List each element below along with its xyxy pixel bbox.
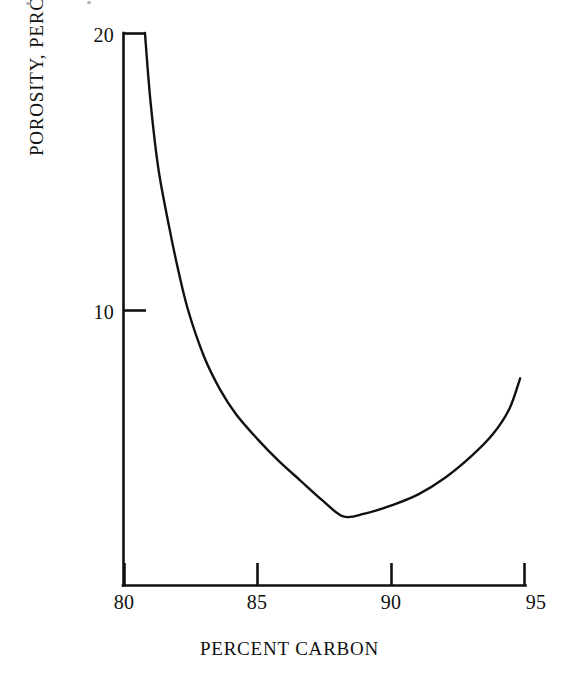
porosity-curve (145, 33, 520, 517)
x-tick-label-85: 85 (238, 592, 276, 612)
x-tick-label-90: 90 (372, 592, 410, 612)
scan-speck (26, 2, 30, 5)
y-tick-label-10: 10 (76, 302, 114, 322)
y-axis-title: POROSITY, PERCENT (26, 0, 48, 212)
x-tick-label-80: 80 (105, 592, 143, 612)
chart-figure: 20 10 80 85 90 95 POROSITY, PERCENT PERC… (0, 0, 579, 684)
plot-area (0, 0, 579, 684)
scan-speck (87, 1, 91, 4)
x-tick-label-95: 95 (517, 592, 555, 612)
y-tick-label-20: 20 (76, 25, 114, 45)
x-axis-title: PERCENT CARBON (0, 638, 579, 660)
